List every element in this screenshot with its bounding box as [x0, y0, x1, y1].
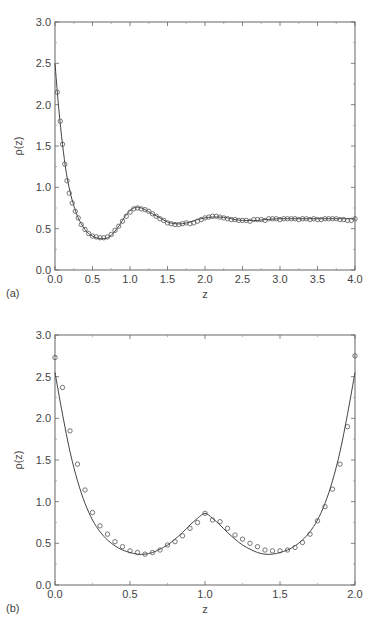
y-tick-label: 2.5: [36, 371, 51, 383]
x-axis-label: z: [202, 288, 208, 300]
y-tick-label: 3.0: [36, 329, 51, 341]
data-point: [173, 539, 177, 543]
y-tick-label: 2.5: [36, 57, 51, 69]
data-point: [98, 524, 102, 528]
y-tick-label: 0.0: [36, 264, 51, 276]
y-tick-label: 2.0: [36, 99, 51, 111]
data-point: [330, 487, 334, 491]
data-point: [248, 541, 252, 545]
x-tick-label: 2.0: [347, 588, 362, 600]
x-axis-label: z: [202, 603, 208, 615]
x-tick-label: 0.5: [122, 588, 137, 600]
data-point: [270, 549, 274, 553]
x-tick-label: 0.5: [85, 273, 100, 285]
y-axis-label: ρ(z): [12, 136, 24, 155]
y-axis-label: ρ(z): [12, 450, 24, 469]
plot-frame: [55, 335, 355, 585]
y-tick-label: 2.0: [36, 412, 51, 424]
x-tick-label: 1.0: [197, 588, 212, 600]
x-tick-label: 2.5: [235, 273, 250, 285]
theory-curve: [55, 373, 355, 555]
y-tick-label: 0.5: [36, 223, 51, 235]
data-point: [75, 462, 79, 466]
plot-frame: [55, 22, 355, 270]
y-tick-label: 0.0: [36, 579, 51, 591]
x-tick-label: 4.0: [347, 273, 362, 285]
data-point: [255, 544, 259, 548]
data-point: [195, 520, 199, 524]
data-point: [83, 488, 87, 492]
data-point: [105, 532, 109, 536]
y-tick-label: 1.0: [36, 496, 51, 508]
data-point: [338, 462, 342, 466]
y-tick-label: 0.5: [36, 537, 51, 549]
data-point: [263, 548, 267, 552]
data-point: [345, 424, 349, 428]
data-point: [240, 537, 244, 541]
y-tick-label: 1.5: [36, 454, 51, 466]
data-point: [233, 533, 237, 537]
data-point: [218, 519, 222, 523]
x-tick-label: 3.5: [310, 273, 325, 285]
chart-panel-b: 0.00.51.01.52.00.00.51.01.52.02.53.0zρ(z…: [6, 329, 363, 615]
x-tick-label: 1.5: [272, 588, 287, 600]
data-point: [180, 534, 184, 538]
chart-panel-a: 0.00.51.01.52.02.53.03.54.00.00.51.01.52…: [6, 16, 363, 300]
data-point: [120, 544, 124, 548]
y-tick-label: 3.0: [36, 16, 51, 28]
data-point: [300, 540, 304, 544]
data-point: [90, 510, 94, 514]
y-tick-label: 1.5: [36, 140, 51, 152]
x-tick-label: 2.0: [197, 273, 212, 285]
panel-label: (b): [6, 602, 19, 614]
figure: 0.00.51.01.52.02.53.03.54.00.00.51.01.52…: [0, 0, 381, 627]
panel-label: (a): [6, 287, 19, 299]
data-point: [225, 526, 229, 530]
y-tick-label: 1.0: [36, 181, 51, 193]
data-point: [60, 385, 64, 389]
x-tick-label: 1.5: [160, 273, 175, 285]
data-point: [113, 539, 117, 543]
x-tick-label: 3.0: [272, 273, 287, 285]
theory-curve: [55, 63, 355, 238]
data-point: [188, 526, 192, 530]
data-point: [68, 429, 72, 433]
x-tick-label: 1.0: [122, 273, 137, 285]
